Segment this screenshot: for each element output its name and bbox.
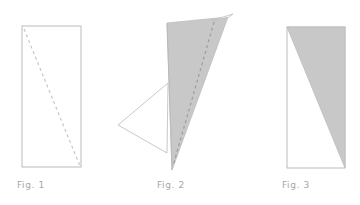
- figure-2-group: [118, 14, 233, 170]
- figure-1-group: [22, 26, 81, 167]
- figures-canvas: [0, 0, 360, 205]
- figure-2-caption: Fig. 2: [157, 180, 185, 190]
- figure-3-caption: Fig. 3: [282, 180, 310, 190]
- fig2-white-flap: [118, 83, 168, 153]
- fig2-gray-triangle: [167, 17, 228, 170]
- figure-1-caption: Fig. 1: [17, 180, 45, 190]
- figure-3-group: [287, 27, 345, 168]
